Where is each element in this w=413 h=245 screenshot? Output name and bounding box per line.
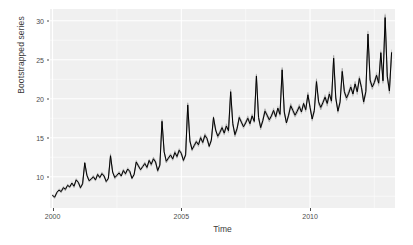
x-tick-label: 2000: [33, 213, 73, 220]
y-tick-label: 10: [0, 173, 44, 180]
x-tick-mark: [310, 208, 311, 211]
x-tick-label: 2005: [161, 213, 201, 220]
y-tick-mark: [47, 176, 50, 177]
x-axis-title: Time: [50, 224, 395, 234]
y-tick-label: 15: [0, 134, 44, 141]
chart-figure: 1015202530200020052010 Bootstrapped seri…: [0, 0, 413, 245]
y-tick-mark: [47, 137, 50, 138]
x-tick-mark: [53, 208, 54, 211]
x-tick-mark: [181, 208, 182, 211]
y-tick-mark: [47, 20, 50, 21]
y-axis-title: Bootstrapped series: [16, 0, 26, 115]
y-tick-mark: [47, 59, 50, 60]
y-tick-mark: [47, 98, 50, 99]
plot-panel: [50, 9, 395, 208]
x-tick-label: 2010: [290, 213, 330, 220]
series-layer: [50, 9, 395, 208]
